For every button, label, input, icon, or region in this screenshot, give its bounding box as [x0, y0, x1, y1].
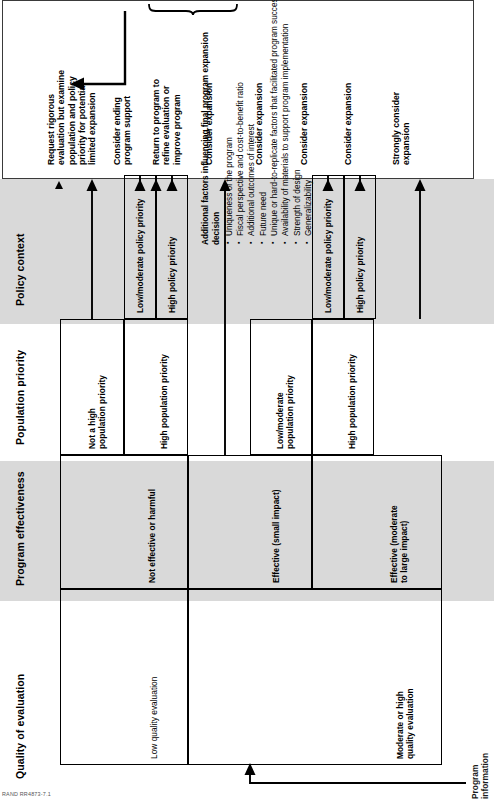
arrowhead-4 — [167, 179, 178, 191]
factor-item: Generalizability — [303, 5, 314, 236]
feedback-arrow — [84, 11, 125, 84]
factor-item: Availability of materials to support pro… — [280, 5, 291, 236]
factor-item: Additional outcomes of interest — [246, 5, 257, 236]
arrowhead-3 — [135, 179, 146, 191]
arrowhead-entry — [245, 763, 256, 775]
factor-item: Future need — [258, 5, 269, 236]
additional-factors-block: Additional factors influencing final pro… — [200, 5, 314, 245]
additional-factors-title: Additional factors influencing final pro… — [200, 5, 223, 245]
arrowhead-6 — [323, 179, 334, 191]
figure-frame: Quality of evaluation Program effectiven… — [0, 0, 494, 801]
arrowhead-7 — [355, 179, 366, 191]
arrowhead-feedback — [70, 78, 84, 91]
additional-factors-list: Uniqueness of the program Fiscal perspec… — [224, 5, 315, 245]
factor-item: Uniqueness of the program — [224, 5, 235, 236]
arrowhead-2 — [151, 179, 162, 191]
factor-item: Strength of design — [292, 5, 303, 236]
figure-credit: RAND RR4873-7.1 — [2, 791, 51, 797]
arrowhead-8 — [415, 179, 426, 191]
arrowhead-1 — [87, 179, 98, 191]
entry-connector — [250, 767, 466, 783]
factor-item: Fiscal perspective and cost-to-benefit r… — [235, 5, 246, 236]
program-information-label: Program information — [470, 679, 490, 799]
decision-tree-canvas: Quality of evaluation Program effectiven… — [0, 0, 494, 801]
factor-item: Unique or hard-to-replicate factors that… — [269, 5, 280, 236]
